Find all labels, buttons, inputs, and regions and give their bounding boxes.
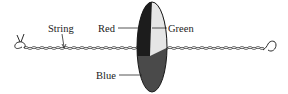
string-label: String <box>48 23 74 34</box>
green-label: Green <box>168 23 194 34</box>
left-loop-knot <box>15 34 25 49</box>
color-disc-diagram: String Red Green Blue <box>0 0 288 94</box>
right-loop <box>263 41 276 51</box>
blue-label: Blue <box>96 70 116 81</box>
red-label: Red <box>98 23 116 34</box>
